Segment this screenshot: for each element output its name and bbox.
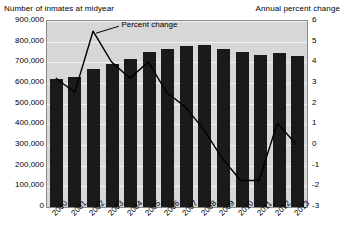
left-axis-title: Number of inmates at midyear [4,4,114,13]
right-axis-tick: 6 [312,16,338,24]
left-axis-tick: 0 [0,202,44,210]
left-axis-tick: 700,000 [0,57,44,65]
right-axis-tick: 0 [312,140,338,148]
right-axis-tick: -2 [312,181,338,189]
right-axis-tick: -1 [312,161,338,169]
right-axis-tick: 4 [312,57,338,65]
left-axis-tick: 600,000 [0,78,44,86]
right-axis-tick: -3 [312,202,338,210]
left-axis-tick: 300,000 [0,140,44,148]
left-axis-tick: 200,000 [0,161,44,169]
chart-container: Number of inmates at midyear Annual perc… [0,0,344,243]
right-axis-tick: 1 [312,119,338,127]
right-axis-tick: 3 [312,78,338,86]
right-axis-tick: 5 [312,37,338,45]
annotation-leader-path [47,21,307,207]
right-axis-title: Annual percent change [256,4,340,13]
right-axis-tick: 2 [312,99,338,107]
percent-change-annotation-label: Percent change [121,20,177,29]
left-axis-tick: 400,000 [0,119,44,127]
left-axis-tick: 500,000 [0,99,44,107]
left-axis-tick: 900,000 [0,16,44,24]
left-axis-tick: 800,000 [0,37,44,45]
left-axis-tick: 100,000 [0,181,44,189]
annotation-leader-line [47,21,307,207]
plot-area [46,20,308,208]
